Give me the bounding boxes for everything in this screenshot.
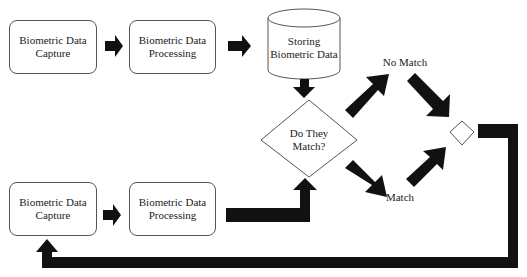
storage-label: StoringBiometric Data xyxy=(268,35,340,61)
decision-line1: Do They xyxy=(290,127,329,139)
top-processing-box: Biometric DataProcessing xyxy=(129,20,216,74)
match-label: Match xyxy=(380,191,420,204)
bottom-capture-line2: Capture xyxy=(36,209,71,221)
bottom-capture-line1: Biometric Data xyxy=(19,196,87,208)
arrow-to-no-match xyxy=(345,74,389,118)
arrow-from-match xyxy=(406,147,446,187)
top-capture-line2: Capture xyxy=(36,47,71,59)
top-processing-line2: Processing xyxy=(149,47,197,59)
bottom-processing-line1: Biometric Data xyxy=(139,196,207,208)
bottom-capture-box: Biometric DataCapture xyxy=(9,182,97,236)
merge-diamond xyxy=(450,121,474,145)
top-capture-line1: Biometric Data xyxy=(19,34,87,46)
arrow-processing-to-storage xyxy=(228,35,251,57)
bottom-processing-line2: Processing xyxy=(149,209,197,221)
storage-line1: Storing xyxy=(288,35,320,47)
arrow-storage-to-decision xyxy=(293,79,315,98)
storage-line2: Biometric Data xyxy=(270,48,338,60)
arrow-capture-to-processing-top xyxy=(105,35,123,57)
arrow-processing-to-decision xyxy=(226,178,317,222)
decision-label: Do TheyMatch? xyxy=(279,127,339,153)
top-capture-box: Biometric DataCapture xyxy=(9,20,97,74)
decision-line2: Match? xyxy=(293,140,326,152)
no-match-label: No Match xyxy=(375,56,435,69)
arrow-capture-to-processing-bottom xyxy=(103,204,121,226)
top-processing-line1: Biometric Data xyxy=(139,34,207,46)
bottom-processing-box: Biometric DataProcessing xyxy=(129,182,216,236)
arrow-from-no-match xyxy=(407,73,450,117)
